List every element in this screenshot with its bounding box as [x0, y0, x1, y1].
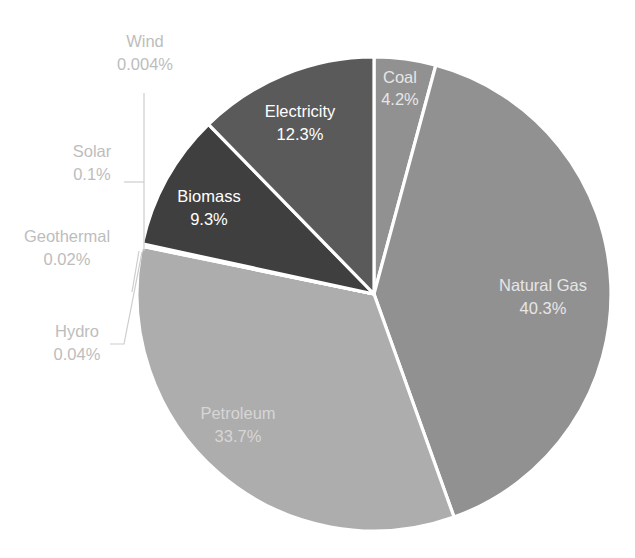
- slice-label-solar-percent: 0.1%: [73, 165, 111, 183]
- slice-label-hydro-name: Hydro: [55, 322, 99, 340]
- slice-label-electricity-name: Electricity: [265, 102, 336, 120]
- slice-label-geothermal-name: Geothermal: [24, 227, 110, 245]
- slice-label-hydro-percent: 0.04%: [54, 345, 101, 363]
- slice-label-petroleum-name: Petroleum: [200, 404, 275, 422]
- slice-label-coal-name: Coal: [383, 68, 417, 86]
- slice-label-geothermal-percent: 0.02%: [44, 250, 91, 268]
- slice-label-electricity-percent: 12.3%: [277, 125, 324, 143]
- pie-chart-svg: Coal 4.2% Natural Gas 40.3% Petroleum 33…: [0, 0, 635, 558]
- slice-label-biomass-name: Biomass: [177, 187, 240, 205]
- slice-label-biomass-percent: 9.3%: [190, 210, 228, 228]
- slice-label-natural-gas-percent: 40.3%: [520, 299, 567, 317]
- slice-label-coal-percent: 4.2%: [381, 90, 419, 108]
- pie-chart-figure: Coal 4.2% Natural Gas 40.3% Petroleum 33…: [0, 0, 635, 558]
- slice-label-wind-percent: 0.004%: [117, 55, 173, 73]
- slice-label-petroleum-percent: 33.7%: [215, 427, 262, 445]
- slice-label-solar-name: Solar: [73, 142, 112, 160]
- slice-label-natural-gas-name: Natural Gas: [499, 276, 587, 294]
- slice-label-wind-name: Wind: [126, 32, 164, 50]
